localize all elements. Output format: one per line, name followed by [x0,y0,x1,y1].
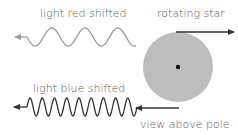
blue-shift-label: light blue shifted [33,82,125,95]
rotating-star-label: rotating star [157,7,225,20]
doppler-diagram: light red shifted rotating star light bl… [0,0,238,135]
red-shifted-wave [27,28,136,46]
star-rotation-axis-dot [176,65,180,69]
blue-shifted-wave [27,98,137,116]
red-shift-label: light red shifted [40,7,127,20]
view-above-pole-label: view above pole [140,118,230,131]
